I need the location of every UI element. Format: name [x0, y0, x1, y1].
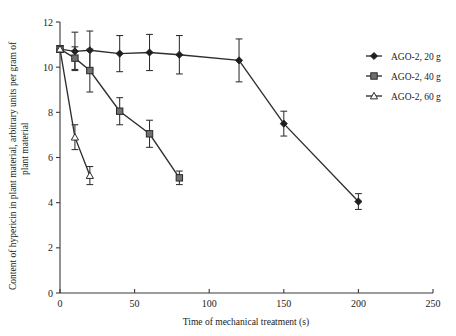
legend-label: AGO-2, 20 g: [391, 52, 441, 62]
data-point-marker: [146, 131, 152, 137]
y-axis-title: Content of hypericin in plant material, …: [8, 41, 30, 290]
x-tick-label: 250: [426, 298, 441, 309]
y-tick-label: 8: [48, 107, 53, 118]
x-axis-title: Time of mechanical treatment (s): [183, 317, 309, 328]
data-point-marker: [86, 172, 93, 178]
data-point-marker: [146, 49, 153, 56]
x-tick-label: 200: [351, 298, 366, 309]
data-point-marker: [87, 67, 93, 73]
y-axis-title-line1: Content of hypericin in plant material, …: [8, 41, 18, 290]
legend-item: AGO-2, 60 g: [366, 92, 441, 102]
legend-marker: [370, 52, 377, 59]
data-point-marker: [176, 175, 182, 181]
data-series: [56, 31, 362, 209]
data-point-marker: [71, 134, 78, 140]
y-tick-label: 0: [48, 288, 53, 299]
data-point-marker: [116, 108, 122, 114]
chart-legend: AGO-2, 20 gAGO-2, 40 gAGO-2, 60 g: [366, 52, 441, 102]
y-tick-label: 4: [48, 197, 53, 208]
y-axis-ticks: 024681012: [43, 17, 60, 299]
x-tick-label: 100: [202, 298, 217, 309]
series-line: [60, 49, 358, 201]
x-tick-label: 150: [276, 298, 291, 309]
data-point-marker: [116, 50, 123, 57]
y-tick-label: 2: [48, 242, 53, 253]
data-point-marker: [176, 51, 183, 58]
x-tick-label: 0: [58, 298, 63, 309]
legend-marker: [371, 73, 377, 79]
data-point-marker: [72, 55, 78, 61]
data-series-layer: [56, 31, 362, 209]
y-tick-label: 12: [43, 17, 53, 28]
legend-label: AGO-2, 40 g: [391, 72, 441, 82]
x-tick-label: 50: [130, 298, 140, 309]
legend-label: AGO-2, 60 g: [391, 92, 441, 102]
chart-figure: Content of hypericin in plant material, …: [0, 0, 456, 336]
legend-item: AGO-2, 40 g: [366, 72, 441, 82]
legend-item: AGO-2, 20 g: [366, 52, 441, 62]
x-axis-ticks: 050100150200250: [58, 289, 441, 309]
y-axis-title-line2: plant material: [20, 122, 30, 175]
y-tick-label: 10: [43, 62, 53, 73]
y-tick-label: 6: [48, 152, 53, 163]
hypericin-content-line-chart: Content of hypericin in plant material, …: [0, 0, 456, 336]
